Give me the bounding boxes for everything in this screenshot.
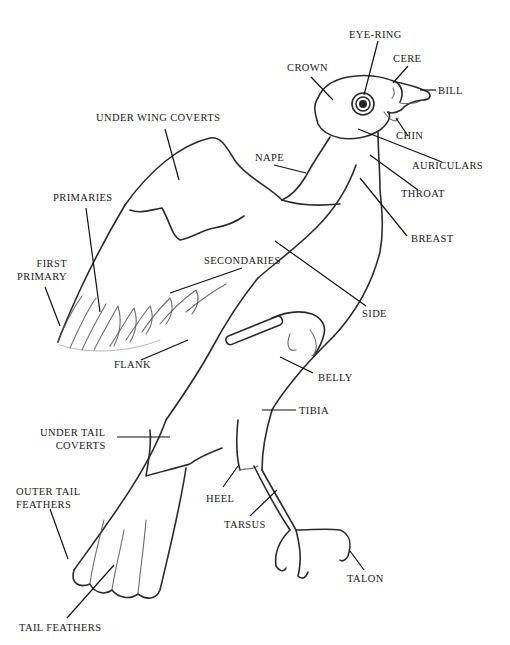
leader-belly bbox=[280, 357, 313, 373]
leader-outer-tail-feathers bbox=[50, 509, 68, 559]
leader-side bbox=[275, 241, 366, 306]
label-outer-tail-feathers: OUTER TAIL FEATHERS bbox=[16, 485, 81, 511]
label-belly: BELLY bbox=[318, 371, 353, 384]
bird-anatomy-diagram: EYE-RING CERE CROWN BILL CHIN UNDER WING… bbox=[0, 0, 510, 645]
bird-leg bbox=[237, 410, 350, 578]
leader-cere bbox=[393, 66, 408, 83]
label-eye-ring: EYE-RING bbox=[349, 28, 402, 41]
leader-crown bbox=[311, 77, 333, 100]
leader-heel bbox=[223, 466, 238, 487]
label-under-wing-coverts: UNDER WING COVERTS bbox=[96, 111, 220, 124]
label-first-primary: FIRST PRIMARY bbox=[17, 257, 67, 283]
label-auriculars: AURICULARS bbox=[412, 159, 483, 172]
label-side: SIDE bbox=[362, 307, 387, 320]
leader-breast bbox=[360, 178, 407, 236]
label-flank: FLANK bbox=[114, 358, 151, 371]
leader-secondaries bbox=[170, 268, 242, 293]
leader-under-wing-coverts bbox=[165, 129, 179, 180]
label-primaries: PRIMARIES bbox=[53, 191, 113, 204]
label-cere: CERE bbox=[393, 52, 421, 65]
label-bill: BILL bbox=[438, 84, 463, 97]
leader-flank bbox=[141, 340, 188, 360]
leader-primaries bbox=[86, 208, 100, 312]
leader-eye-ring bbox=[364, 41, 378, 95]
label-under-tail-coverts: UNDER TAIL COVERTS bbox=[40, 426, 106, 452]
leader-talon bbox=[350, 551, 364, 570]
label-nape: NAPE bbox=[255, 151, 284, 164]
label-secondaries: SECONDARIES bbox=[204, 254, 281, 267]
leader-nape bbox=[274, 165, 306, 173]
bird-wing bbox=[58, 138, 282, 351]
label-tail-feathers: TAIL FEATHERS bbox=[19, 621, 101, 634]
label-chin: CHIN bbox=[396, 129, 423, 142]
label-tarsus: TARSUS bbox=[224, 518, 266, 531]
leader-first-primary bbox=[45, 287, 60, 326]
label-throat: THROAT bbox=[401, 187, 445, 200]
label-crown: CROWN bbox=[287, 61, 328, 74]
bird-line-drawing bbox=[0, 0, 510, 645]
label-tibia: TIBIA bbox=[299, 404, 329, 417]
raised-foot bbox=[225, 312, 325, 356]
label-breast: BREAST bbox=[411, 232, 454, 245]
label-talon: TALON bbox=[347, 572, 384, 585]
leader-throat bbox=[370, 155, 418, 190]
label-heel: HEEL bbox=[206, 492, 234, 505]
